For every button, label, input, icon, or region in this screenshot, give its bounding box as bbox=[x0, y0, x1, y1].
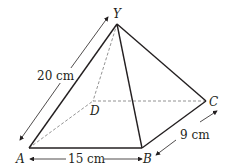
vertex-label-B: B bbox=[142, 152, 152, 166]
measurement-AY: 20 cm bbox=[37, 69, 75, 83]
measurement-AB: 15 cm bbox=[68, 152, 106, 166]
measurement-BC: 9 cm bbox=[180, 128, 210, 142]
vertex-label-C: C bbox=[209, 95, 218, 109]
pyramid-diagram: 20 cm 15 cm 9 cm Y A B C D bbox=[0, 0, 227, 168]
edge-AD bbox=[29, 101, 93, 148]
edge-YD bbox=[93, 24, 117, 101]
vertex-label-A: A bbox=[15, 152, 25, 166]
vertex-label-Y: Y bbox=[113, 7, 122, 21]
edge-YA bbox=[29, 24, 117, 148]
vertex-label-D: D bbox=[89, 104, 100, 118]
